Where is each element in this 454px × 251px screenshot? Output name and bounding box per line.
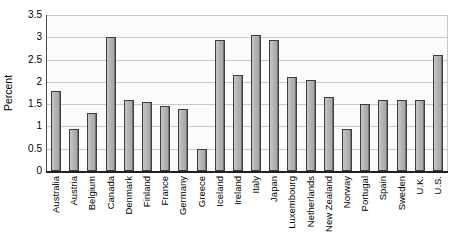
x-category-label: Ireland: [232, 176, 244, 246]
x-category-label: Denmark: [123, 176, 135, 246]
x-axis-line: [46, 171, 448, 173]
bar-finland: [142, 102, 152, 171]
bar-new-zealand: [324, 97, 334, 171]
y-tick-label: 2.5: [0, 54, 42, 66]
x-category-label: Japan: [268, 176, 280, 246]
y-tick-label: 3.5: [0, 9, 42, 21]
bar-canada: [106, 37, 116, 171]
x-category-label: Spain: [377, 176, 389, 246]
bar-belgium: [87, 113, 97, 171]
bar-iceland: [215, 40, 225, 171]
bar-u-k-: [415, 100, 425, 171]
x-category-label: Norway: [341, 176, 353, 246]
bar-sweden: [397, 100, 407, 171]
bar-denmark: [124, 100, 134, 171]
y-tick-label: 0.5: [0, 143, 42, 155]
x-category-label: Iceland: [214, 176, 226, 246]
x-category-label: France: [159, 176, 171, 246]
bar-portugal: [360, 104, 370, 171]
x-category-label: Greece: [196, 176, 208, 246]
bar-spain: [378, 100, 388, 171]
bar-france: [160, 106, 170, 171]
bar-netherlands: [306, 80, 316, 171]
x-category-label: Belgium: [86, 176, 98, 246]
y-tick-label: 0: [0, 165, 42, 177]
x-category-label: Sweden: [396, 176, 408, 246]
x-category-label: New Zealand: [323, 176, 335, 246]
bar-u-s-: [433, 55, 443, 171]
y-tick-label: 1.5: [0, 98, 42, 110]
x-category-label: Australia: [50, 176, 62, 246]
x-category-label: Italy: [250, 176, 262, 246]
x-category-label: U.S.: [432, 176, 444, 246]
bar-austria: [69, 129, 79, 171]
x-category-label: Germany: [177, 176, 189, 246]
bar-norway: [342, 129, 352, 171]
bar-luxembourg: [287, 77, 297, 171]
x-category-label: Portugal: [359, 176, 371, 246]
bar-greece: [197, 149, 207, 171]
x-category-label: Finland: [141, 176, 153, 246]
bar-japan: [269, 40, 279, 171]
x-category-label: Netherlands: [305, 176, 317, 246]
x-category-label: Austria: [68, 176, 80, 246]
x-category-label: U.K.: [414, 176, 426, 246]
bar-italy: [251, 35, 261, 171]
y-axis-title: Percent: [1, 63, 15, 123]
plot-area: [47, 15, 448, 171]
y-tick-label: 2: [0, 76, 42, 88]
bar-germany: [178, 109, 188, 171]
x-category-label: Luxembourg: [286, 176, 298, 246]
y-tick-label: 3: [0, 31, 42, 43]
bar-ireland: [233, 75, 243, 171]
gridline: [47, 15, 447, 16]
bar-chart: Percent 3.532.521.510.50 AustraliaAustri…: [0, 0, 454, 251]
bar-australia: [51, 91, 61, 171]
y-tick-label: 1: [0, 120, 42, 132]
x-category-label: Canada: [105, 176, 117, 246]
